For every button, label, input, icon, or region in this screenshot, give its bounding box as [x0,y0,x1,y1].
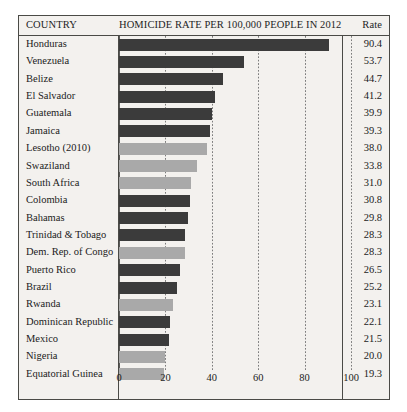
x-tick-80: 80 [299,372,310,383]
x-tick-100: 100 [343,372,359,383]
x-tick-20: 20 [160,372,171,383]
country-label: Bahamas [26,212,65,223]
rate-value: 30.8 [348,194,382,205]
rate-value: 38.0 [348,142,382,153]
country-label: Lesotho (2010) [26,142,90,153]
chart-bar [119,334,169,346]
table-row: Belize44.7 [19,71,389,88]
country-label: Brazil [26,281,52,292]
chart-rows: Honduras90.4Venezuela53.7Belize44.7El Sa… [19,36,389,366]
country-label: Colombia [26,194,67,205]
chart-bar [119,282,177,294]
table-row: Mexico21.5 [19,331,389,348]
table-row: Rwanda23.1 [19,296,389,313]
rate-value: 22.1 [348,316,382,327]
rate-value: 44.7 [348,73,382,84]
country-label: Puerto Rico [26,264,76,275]
chart-bar [119,125,210,137]
table-row: South Africa31.0 [19,175,389,192]
table-row: Dem. Rep. of Congo28.3 [19,244,389,261]
chart-bar [119,247,185,259]
country-label: South Africa [26,177,79,188]
table-row: Dominican Republic22.1 [19,314,389,331]
rate-value: 29.8 [348,212,382,223]
x-axis-tick-labels: 020406080100 [19,372,389,392]
chart-bar [119,299,173,311]
country-label: Honduras [26,38,67,49]
table-row: Venezuela53.7 [19,53,389,70]
chart-bar [119,229,185,241]
country-label: Dominican Republic [26,316,113,327]
table-row: Honduras90.4 [19,36,389,53]
country-label: Jamaica [26,125,60,136]
country-label: Dem. Rep. of Congo [26,246,113,257]
chart-bar [119,160,197,172]
table-row: Nigeria20.0 [19,348,389,365]
chart-title: HOMICIDE RATE PER 100,000 PEOPLE IN 2012 [119,19,341,30]
table-row: Lesotho (2010)38.0 [19,140,389,157]
rate-value: 28.3 [348,246,382,257]
table-row: Bahamas29.8 [19,210,389,227]
chart-bar [119,195,190,207]
column-header-country: COUNTRY [26,19,77,30]
rate-value: 20.0 [348,350,382,361]
rate-value: 26.5 [348,264,382,275]
column-header-rate: Rate [362,19,382,30]
rate-value: 31.0 [348,177,382,188]
rate-value: 23.1 [348,298,382,309]
chart-bar [119,91,215,103]
chart-panel: COUNTRY HOMICIDE RATE PER 100,000 PEOPLE… [18,15,390,400]
country-label: Mexico [26,333,58,344]
chart-bar [119,351,165,363]
table-row: Jamaica39.3 [19,123,389,140]
rate-value: 39.9 [348,107,382,118]
table-header-row: COUNTRY HOMICIDE RATE PER 100,000 PEOPLE… [19,16,389,36]
chart-bar [119,264,180,276]
table-row: Puerto Rico26.5 [19,262,389,279]
table-row: El Salvador41.2 [19,88,389,105]
table-row: Trinidad & Tobago28.3 [19,227,389,244]
country-label: Venezuela [26,55,69,66]
table-row: Colombia30.8 [19,192,389,209]
chart-bar [119,56,244,68]
chart-bar [119,212,188,224]
rate-value: 53.7 [348,55,382,66]
country-label: Rwanda [26,298,60,309]
rate-value: 39.3 [348,125,382,136]
country-label: Trinidad & Tobago [26,229,106,240]
country-label: Nigeria [26,350,58,361]
x-tick-0: 0 [116,372,121,383]
table-row: Swaziland33.8 [19,158,389,175]
chart-bar [119,39,329,51]
rate-value: 90.4 [348,38,382,49]
chart-bar [119,73,223,85]
chart-bar [119,177,191,189]
chart-bar [119,143,207,155]
country-label: Swaziland [26,160,70,171]
rate-value: 33.8 [348,160,382,171]
rate-value: 21.5 [348,333,382,344]
rate-value: 41.2 [348,90,382,101]
chart-bar [119,316,170,328]
country-label: El Salvador [26,90,75,101]
table-row: Brazil25.2 [19,279,389,296]
rate-value: 25.2 [348,281,382,292]
x-tick-60: 60 [253,372,264,383]
rate-value: 28.3 [348,229,382,240]
country-label: Belize [26,73,53,84]
country-label: Guatemala [26,107,71,118]
table-row: Guatemala39.9 [19,105,389,122]
x-tick-40: 40 [207,372,218,383]
chart-bar [119,108,212,120]
